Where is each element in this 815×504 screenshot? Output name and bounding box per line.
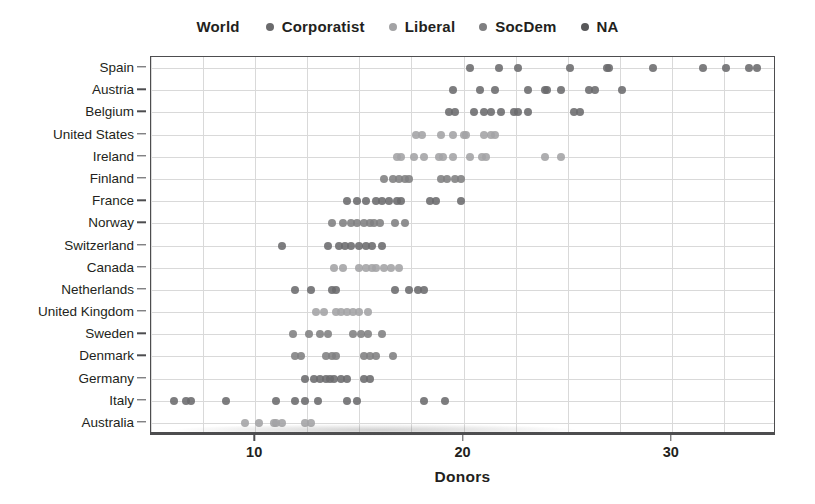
chart-root: World Corporatist Liberal SocDem NA Spai…	[0, 0, 815, 504]
data-point	[722, 64, 730, 72]
data-point	[487, 108, 495, 116]
x-tick-mark	[253, 433, 254, 441]
gridline-horizontal	[151, 246, 774, 247]
legend-item-socdem[interactable]: SocDem	[479, 18, 556, 35]
data-point	[432, 197, 440, 205]
gridline-horizontal	[151, 401, 774, 402]
y-tick-mark	[137, 244, 146, 245]
data-point	[576, 108, 584, 116]
data-point	[364, 308, 372, 316]
data-point	[353, 397, 361, 405]
legend-label-corporatist: Corporatist	[282, 18, 365, 35]
gridline-vertical	[203, 57, 204, 432]
y-tick-label-austria: Austria	[92, 82, 134, 97]
gridline-vertical	[568, 57, 569, 432]
y-tick-label-australia: Australia	[81, 414, 134, 429]
data-point	[389, 352, 397, 360]
data-point	[437, 131, 445, 139]
data-point	[305, 330, 313, 338]
data-point	[449, 86, 457, 94]
data-point	[312, 308, 320, 316]
legend-title: World	[196, 18, 239, 35]
data-point	[466, 64, 474, 72]
data-point	[439, 153, 447, 161]
gridline-horizontal	[151, 157, 774, 158]
data-point	[470, 108, 478, 116]
data-point	[557, 153, 565, 161]
data-point	[278, 242, 286, 250]
y-tick-label-united-kingdom: United Kingdom	[38, 304, 134, 319]
gridline-vertical	[724, 57, 725, 432]
data-point	[410, 153, 418, 161]
data-point	[401, 219, 409, 227]
y-tick-label-united-states: United States	[53, 126, 134, 141]
data-point	[745, 64, 753, 72]
data-point	[332, 352, 340, 360]
data-point	[387, 264, 395, 272]
y-tick-label-canada: Canada	[87, 259, 134, 274]
legend-item-liberal[interactable]: Liberal	[389, 18, 456, 35]
data-point	[514, 108, 522, 116]
data-point	[372, 352, 380, 360]
chart-legend: World Corporatist Liberal SocDem NA	[0, 18, 815, 35]
data-point	[391, 219, 399, 227]
data-point	[291, 286, 299, 294]
legend-swatch-socdem	[479, 23, 487, 31]
data-point	[297, 352, 305, 360]
gridline-horizontal	[151, 379, 774, 380]
data-point	[397, 197, 405, 205]
gridline-vertical	[411, 57, 412, 432]
data-point	[482, 153, 490, 161]
gridline-vertical	[255, 57, 256, 432]
gridline-vertical	[620, 57, 621, 432]
y-tick-label-norway: Norway	[88, 215, 134, 230]
y-tick-label-belgium: Belgium	[85, 104, 134, 119]
y-axis: SpainAustriaBelgiumUnited StatesIrelandF…	[0, 56, 150, 433]
data-point	[320, 308, 328, 316]
data-point	[378, 242, 386, 250]
legend-item-corporatist[interactable]: Corporatist	[266, 18, 365, 35]
data-point	[699, 64, 707, 72]
y-tick-label-italy: Italy	[109, 392, 134, 407]
gridline-horizontal	[151, 223, 774, 224]
data-point	[420, 153, 428, 161]
data-point	[451, 108, 459, 116]
y-tick-label-spain: Spain	[99, 60, 134, 75]
data-point	[291, 397, 299, 405]
data-point	[514, 64, 522, 72]
data-point	[397, 153, 405, 161]
data-point	[330, 264, 338, 272]
data-point	[491, 131, 499, 139]
data-point	[355, 308, 363, 316]
y-tick-label-ireland: Ireland	[93, 148, 134, 163]
y-tick-mark	[137, 399, 146, 400]
data-point	[324, 242, 332, 250]
data-point	[380, 175, 388, 183]
data-point	[753, 64, 761, 72]
data-point	[449, 153, 457, 161]
gridline-horizontal	[151, 312, 774, 313]
y-tick-label-netherlands: Netherlands	[61, 281, 134, 296]
data-point	[557, 86, 565, 94]
data-point	[343, 375, 351, 383]
y-tick-mark	[137, 66, 146, 67]
data-point	[316, 330, 324, 338]
data-point	[591, 86, 599, 94]
y-tick-mark	[137, 111, 146, 112]
data-point	[289, 330, 297, 338]
data-point	[222, 397, 230, 405]
gridline-horizontal	[151, 68, 774, 69]
x-tick-label-30: 30	[663, 444, 679, 460]
gridline-horizontal	[151, 290, 774, 291]
legend-item-na[interactable]: NA	[581, 18, 619, 35]
data-point	[420, 397, 428, 405]
data-point	[314, 397, 322, 405]
data-point	[328, 219, 336, 227]
data-point	[170, 397, 178, 405]
y-tick-label-france: France	[92, 193, 134, 208]
data-point	[391, 286, 399, 294]
y-tick-mark	[137, 155, 146, 156]
y-tick-mark	[137, 266, 146, 267]
data-point	[491, 86, 499, 94]
data-point	[255, 419, 263, 427]
